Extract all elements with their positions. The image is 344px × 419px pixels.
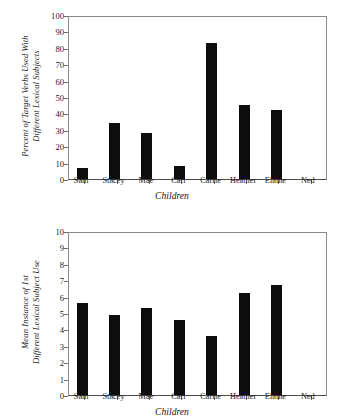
y-tick-mark (64, 114, 68, 115)
x-tick-label: Mae (139, 392, 154, 401)
y-tick-mark (64, 248, 68, 249)
y-tick-mark (64, 147, 68, 148)
x-tick-label: Stacey (103, 176, 125, 185)
y-axis-tick-labels-bottom: 012345678910 (42, 232, 64, 396)
y-tick-mark (64, 32, 68, 33)
bar (239, 293, 250, 396)
y-tick-label: 30 (55, 126, 64, 136)
y-tick-label: 70 (55, 60, 64, 70)
x-tick-label: Carrie (200, 392, 221, 401)
x-tick-label: Carrie (200, 176, 221, 185)
figure-percent-target-verbs: Percent of Target Verbs Used With Differ… (0, 0, 344, 210)
y-axis-title-top: Percent of Target Verbs Used With Differ… (20, 14, 42, 178)
y-tick-label: 60 (55, 77, 64, 87)
y-tick-label: 20 (55, 142, 64, 152)
x-tick-label: Heather (230, 392, 256, 401)
y-tick-mark (64, 180, 68, 181)
bar (77, 303, 88, 395)
y-axis-tick-labels-top: 0102030405060708090100 (42, 16, 64, 180)
x-tick-label: Heather (230, 176, 256, 185)
y-tick-label: 100 (51, 11, 64, 21)
x-tick-label: Carl (171, 392, 185, 401)
y-axis-title-top-line1: Percent of Target Verbs Used With (20, 14, 31, 178)
x-tick-label: Mae (139, 176, 154, 185)
x-tick-label: Sam (74, 392, 89, 401)
y-tick-mark (64, 363, 68, 364)
y-tick-label: 50 (55, 93, 64, 103)
y-tick-mark (64, 164, 68, 165)
bar (239, 105, 250, 179)
y-tick-mark (64, 347, 68, 348)
y-tick-label: 80 (55, 44, 64, 54)
y-tick-mark (64, 131, 68, 132)
figure-mean-instance: Mean Instance of 1st Different Lexical S… (0, 210, 344, 419)
plot-area-bottom (68, 232, 327, 396)
y-tick-mark (64, 98, 68, 99)
y-tick-label: 10 (55, 159, 64, 169)
y-tick-mark (64, 396, 68, 397)
y-tick-mark (64, 265, 68, 266)
y-tick-mark (64, 298, 68, 299)
bar (206, 43, 217, 179)
bar (109, 123, 120, 179)
x-tick-label: Ned (301, 392, 315, 401)
y-tick-mark (64, 65, 68, 66)
x-tick-label: Stacey (103, 392, 125, 401)
bar (271, 110, 282, 179)
y-tick-label: 40 (55, 109, 64, 119)
y-tick-label: 90 (55, 27, 64, 37)
x-tick-label: Ned (301, 176, 315, 185)
bar (141, 133, 152, 179)
y-tick-mark (64, 330, 68, 331)
bar-series-top (69, 17, 326, 179)
y-axis-title-bottom-line2: Different Lexical Subject Use (31, 230, 42, 394)
x-axis-title-bottom: Children (0, 406, 344, 417)
y-axis-title-bottom-line1: Mean Instance of 1st (20, 230, 31, 394)
y-tick-mark (64, 82, 68, 83)
y-axis-title-bottom: Mean Instance of 1st Different Lexical S… (20, 230, 42, 394)
y-tick-mark (64, 314, 68, 315)
bar (206, 336, 217, 395)
y-tick-mark (64, 49, 68, 50)
bar (271, 285, 282, 395)
x-tick-label: Sam (74, 176, 89, 185)
y-tick-mark (64, 232, 68, 233)
plot-area-top (68, 16, 327, 180)
bar (141, 308, 152, 395)
y-tick-label: 10 (55, 227, 64, 237)
y-tick-mark (64, 380, 68, 381)
bar (174, 320, 185, 395)
x-tick-label: Elaine (265, 392, 286, 401)
y-axis-title-top-line2: Different Lexical Subjects (31, 14, 42, 178)
y-tick-mark (64, 281, 68, 282)
x-tick-label: Carl (171, 176, 185, 185)
x-tick-label: Elaine (265, 176, 286, 185)
bar-series-bottom (69, 233, 326, 395)
bar (109, 315, 120, 395)
y-tick-mark (64, 16, 68, 17)
x-axis-title-top: Children (0, 190, 344, 201)
